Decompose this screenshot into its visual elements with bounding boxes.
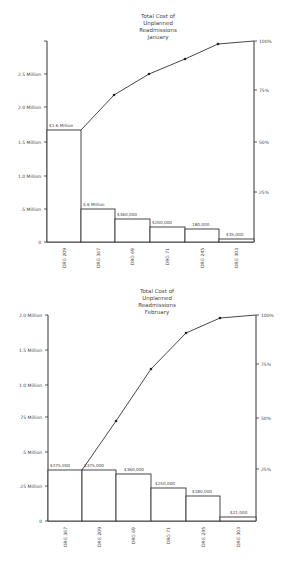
svg-text:1.5 Million: 1.5 Million	[18, 140, 41, 145]
svg-text:2.5 Million: 2.5 Million	[18, 72, 41, 77]
svg-text:DRG 245: DRG 245	[201, 527, 206, 547]
svg-text:$.6 Million: $.6 Million	[83, 202, 105, 207]
svg-text:$200,000: $200,000	[152, 220, 172, 225]
svg-text:Unplanned: Unplanned	[142, 295, 172, 302]
svg-text:DRG 209: DRG 209	[62, 248, 67, 268]
svg-text:2.0 Million: 2.0 Million	[19, 313, 42, 318]
bar-drg-245	[185, 229, 219, 242]
svg-text:Total Cost of: Total Cost of	[139, 288, 175, 294]
cumulative-points	[115, 317, 222, 423]
svg-text:.5 Million: .5 Million	[21, 207, 41, 212]
svg-text:DRG 303: DRG 303	[234, 248, 239, 268]
svg-text:$21,000: $21,000	[230, 510, 248, 515]
cumulative-line	[81, 41, 254, 130]
svg-text:25%: 25%	[261, 467, 272, 472]
svg-text:25%: 25%	[259, 190, 270, 195]
svg-text:100%: 100%	[261, 313, 275, 318]
svg-text:$35,000: $35,000	[226, 232, 244, 237]
chart-title: Total Cost of Unplanned Readmissions Jan…	[139, 13, 177, 41]
svg-text:50%: 50%	[261, 416, 272, 421]
svg-text:180,000: 180,000	[192, 222, 210, 227]
chart-title: Total Cost of Unplanned Readmissions Feb…	[138, 288, 176, 316]
svg-text:Total Cost of: Total Cost of	[140, 13, 176, 19]
svg-text:January: January	[147, 34, 170, 41]
svg-text:$360,000: $360,000	[124, 467, 144, 472]
svg-text:50%: 50%	[259, 140, 270, 145]
svg-text:DRG 69: DRG 69	[131, 527, 136, 544]
bar-drg-303	[220, 517, 256, 521]
svg-text:.5 Million: .5 Million	[22, 450, 42, 455]
cumulative-line	[82, 315, 256, 470]
bars	[47, 130, 254, 242]
svg-text:$375,000: $375,000	[84, 463, 104, 468]
svg-text:DRG 69: DRG 69	[130, 248, 135, 265]
svg-text:DRG 71: DRG 71	[165, 248, 170, 265]
svg-text:DRG 367: DRG 367	[63, 527, 68, 547]
svg-text:0: 0	[39, 519, 42, 524]
svg-text:100%: 100%	[259, 39, 273, 44]
pareto-charts: Total Cost of Unplanned Readmissions Jan…	[0, 0, 286, 566]
bar-drg-71	[150, 227, 185, 242]
svg-text:$250,000: $250,000	[155, 481, 175, 486]
svg-text:$360,000: $360,000	[117, 212, 137, 217]
svg-text:.75 Million: .75 Million	[19, 415, 42, 420]
svg-text:75%: 75%	[261, 362, 272, 367]
svg-text:DRG 303: DRG 303	[236, 527, 241, 547]
bars	[48, 470, 256, 521]
svg-text:February: February	[145, 309, 170, 316]
svg-text:DRG 209: DRG 209	[97, 527, 102, 547]
svg-text:1.0 Million: 1.0 Million	[19, 383, 42, 388]
bar-drg-303	[219, 239, 254, 242]
svg-text:0: 0	[38, 240, 41, 245]
bar-drg-209	[82, 470, 116, 521]
svg-text:Readmissions: Readmissions	[138, 302, 176, 308]
svg-text:1.5 Million: 1.5 Million	[19, 348, 42, 353]
right-tick-labels: 25% 50% 75% 100%	[259, 39, 273, 195]
right-tick-labels: 25% 50% 75% 100%	[261, 313, 275, 472]
svg-text:DRG 71: DRG 71	[166, 527, 171, 544]
svg-text:2.0 Million: 2.0 Million	[18, 105, 41, 110]
chart-january: Total Cost of Unplanned Readmissions Jan…	[18, 13, 273, 268]
svg-text:$1.6 Million: $1.6 Million	[49, 123, 73, 128]
left-tick-labels: 0 .25 Million .5 Million .75 Million 1.0…	[19, 313, 42, 524]
svg-text:75%: 75%	[259, 88, 270, 93]
bar-drg-69	[115, 219, 150, 242]
x-tick-labels: DRG 367 DRG 209 DRG 69 DRG 71 DRG 245 DR…	[63, 527, 241, 547]
chart-february: Total Cost of Unplanned Readmissions Feb…	[19, 288, 275, 547]
svg-text:DRG 367: DRG 367	[96, 248, 101, 268]
svg-text:$375,000: $375,000	[50, 463, 70, 468]
bar-drg-69	[116, 474, 151, 521]
bar-drg-209	[47, 130, 81, 242]
left-tick-labels: 0 .5 Million 1.0 Million 1.5 Million 2.0…	[18, 72, 41, 245]
svg-text:Unplanned: Unplanned	[143, 20, 173, 27]
bar-drg-245	[186, 496, 220, 521]
svg-text:.25 Million: .25 Million	[19, 484, 42, 489]
svg-text:$180,000: $180,000	[192, 489, 212, 494]
bar-drg-71	[151, 488, 186, 521]
x-tick-labels: DRG 209 DRG 367 DRG 69 DRG 71 DRG 245 DR…	[62, 248, 239, 268]
bar-drg-367	[48, 470, 82, 521]
svg-text:Readmissions: Readmissions	[139, 27, 177, 33]
bar-drg-367	[81, 209, 115, 242]
svg-text:1.0 Million: 1.0 Million	[18, 174, 41, 179]
svg-text:DRG 245: DRG 245	[200, 248, 205, 268]
